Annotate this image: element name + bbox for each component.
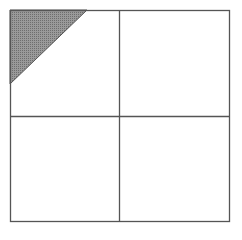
- diagram-canvas: [0, 0, 242, 240]
- shaded-triangle: [10, 10, 87, 84]
